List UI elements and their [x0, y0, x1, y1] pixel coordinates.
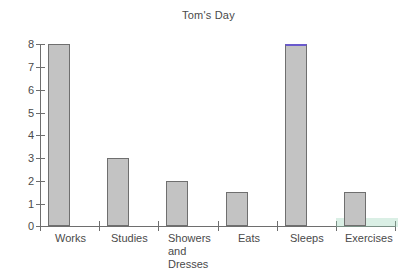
- y-tick-label-6: 6: [4, 85, 34, 96]
- x-label-showers-and-dresses: Showers and Dresses: [168, 232, 211, 271]
- x-label-studies: Studies: [111, 232, 148, 245]
- x-tick-5: [336, 221, 337, 231]
- x-label-eats: Eats: [238, 232, 260, 245]
- x-tick-2: [158, 221, 159, 231]
- bar-exercises[interactable]: [344, 192, 366, 226]
- y-tick-3: [36, 158, 45, 159]
- x-tick-4: [277, 221, 278, 231]
- bar-studies[interactable]: [107, 158, 129, 226]
- y-tick-label-2: 2: [4, 176, 34, 187]
- x-label-sleeps: Sleeps: [290, 232, 324, 245]
- plot-area: 8 7 6 5 4 3 2 1 0 Works Studies Showers …: [0, 0, 417, 278]
- y-tick-8: [36, 44, 45, 45]
- y-tick-7: [36, 67, 45, 68]
- x-label-exercises: Exercises: [345, 232, 393, 245]
- x-label-works: Works: [55, 232, 86, 245]
- bar-eats[interactable]: [226, 192, 248, 226]
- x-tick-3: [218, 221, 219, 231]
- y-tick-2: [36, 181, 45, 182]
- y-tick-label-0: 0: [4, 221, 34, 232]
- y-tick-6: [36, 90, 45, 91]
- y-tick-label-5: 5: [4, 108, 34, 119]
- bar-chart: Tom's Day 8 7 6 5 4 3 2 1 0: [0, 0, 417, 278]
- y-tick-label-7: 7: [4, 62, 34, 73]
- y-tick-label-3: 3: [4, 153, 34, 164]
- x-tick-1: [99, 221, 100, 231]
- bar-works[interactable]: [48, 44, 70, 226]
- bar-sleeps[interactable]: [285, 44, 307, 226]
- y-tick-label-8: 8: [4, 39, 34, 50]
- y-tick-1: [36, 204, 45, 205]
- y-tick-5: [36, 113, 45, 114]
- y-tick-label-1: 1: [4, 199, 34, 210]
- y-tick-label-4: 4: [4, 130, 34, 141]
- x-tick-0: [40, 221, 41, 231]
- x-tick-6: [395, 221, 396, 231]
- bar-showers-and-dresses[interactable]: [166, 181, 188, 226]
- y-tick-4: [36, 135, 45, 136]
